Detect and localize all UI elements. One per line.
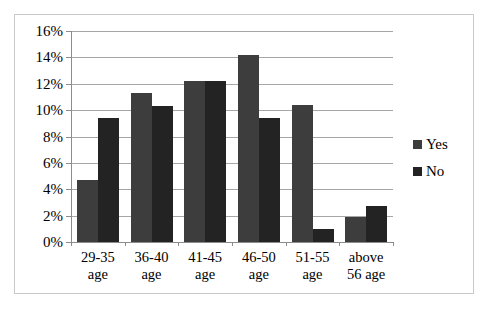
legend-label: Yes xyxy=(426,137,448,152)
y-axis-tick xyxy=(66,216,71,217)
bar-group xyxy=(286,31,340,242)
bar-group xyxy=(71,31,125,242)
category-tick xyxy=(71,242,72,246)
chart-frame: 16% 14% 12% 10% 8% 6% 4% 2% 0% 29-35age3… xyxy=(14,14,474,294)
y-axis-tick xyxy=(66,189,71,190)
category-label-line2: age xyxy=(178,266,232,283)
bar-no[interactable] xyxy=(205,81,226,242)
bar-no[interactable] xyxy=(98,118,119,242)
category-label: 46-50age xyxy=(232,249,286,283)
y-axis-tick-label: 8% xyxy=(17,130,63,145)
legend-item-yes[interactable]: Yes xyxy=(413,131,471,158)
category-label-line2: 56 age xyxy=(339,266,393,283)
legend-swatch-icon xyxy=(413,140,422,149)
legend-label: No xyxy=(426,164,444,179)
y-axis-tick-label: 14% xyxy=(17,50,63,65)
category-label: 36-40age xyxy=(125,249,179,283)
category-label-line1: 51-55 xyxy=(296,249,330,265)
y-axis-tick xyxy=(66,57,71,58)
bar-yes[interactable] xyxy=(238,55,259,242)
bar-group xyxy=(125,31,179,242)
bar-group xyxy=(339,31,393,242)
category-label-line2: age xyxy=(71,266,125,283)
chart-legend: Yes No xyxy=(413,131,471,185)
y-axis-tick-label: 10% xyxy=(17,103,63,118)
y-axis-tick xyxy=(66,84,71,85)
legend-swatch-icon xyxy=(413,167,422,176)
y-axis-tick-label: 16% xyxy=(17,24,63,39)
category-label-line1: 36-40 xyxy=(135,249,169,265)
y-axis-tick-label: 6% xyxy=(17,156,63,171)
bar-yes[interactable] xyxy=(131,93,152,242)
bar-group xyxy=(232,31,286,242)
category-tick xyxy=(178,242,179,246)
category-label-line1: 29-35 xyxy=(81,249,115,265)
category-label-line1: 41-45 xyxy=(188,249,222,265)
bar-yes[interactable] xyxy=(292,105,313,242)
y-axis-tick xyxy=(66,110,71,111)
category-label-line1: 46-50 xyxy=(242,249,276,265)
legend-item-no[interactable]: No xyxy=(413,158,471,185)
y-axis-tick xyxy=(66,31,71,32)
y-axis-line xyxy=(71,31,72,243)
y-axis-tick-label: 2% xyxy=(17,209,63,224)
category-label: 51-55age xyxy=(286,249,340,283)
category-label: 41-45age xyxy=(178,249,232,283)
category-label-line2: age xyxy=(125,266,179,283)
y-axis-tick xyxy=(66,163,71,164)
category-label-line1: above xyxy=(349,249,384,265)
y-axis-tick xyxy=(66,137,71,138)
category-tick xyxy=(232,242,233,246)
bar-yes[interactable] xyxy=(184,81,205,242)
category-label-line2: age xyxy=(286,266,340,283)
y-axis-labels: 16% 14% 12% 10% 8% 6% 4% 2% 0% xyxy=(15,15,63,293)
plot-area xyxy=(71,31,393,242)
category-tick xyxy=(339,242,340,246)
y-axis-tick-label: 4% xyxy=(17,182,63,197)
bar-no[interactable] xyxy=(259,118,280,242)
bar-no[interactable] xyxy=(366,206,387,242)
bar-yes[interactable] xyxy=(345,217,366,242)
category-label: 29-35age xyxy=(71,249,125,283)
category-label: above56 age xyxy=(339,249,393,283)
category-label-line2: age xyxy=(232,266,286,283)
bar-no[interactable] xyxy=(152,106,173,242)
bar-no[interactable] xyxy=(313,229,334,242)
category-tick xyxy=(286,242,287,246)
category-tick xyxy=(393,242,394,246)
bar-yes[interactable] xyxy=(77,180,98,242)
bar-group xyxy=(178,31,232,242)
y-axis-tick-label: 12% xyxy=(17,77,63,92)
y-axis-tick-label: 0% xyxy=(17,235,63,250)
category-tick xyxy=(125,242,126,246)
